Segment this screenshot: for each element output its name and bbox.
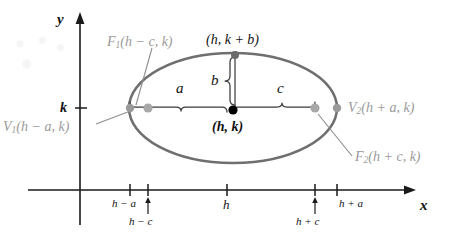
- x-axis-arrowhead: [404, 186, 416, 195]
- measure-label-a: a: [176, 81, 184, 96]
- vertex-left-coords: (h − a, k): [16, 119, 69, 134]
- vertex-left-label: V1(h − a, k): [3, 120, 69, 136]
- focus-left-symbol: F: [107, 34, 116, 49]
- arrow-to-h-plus-c-head: [312, 197, 318, 203]
- x-tick-label-h-minus-c: h − c: [129, 216, 152, 227]
- y-axis-label: y: [57, 12, 64, 27]
- co-vertex-top-dot: [231, 51, 239, 59]
- vertex-left-dot: [126, 104, 134, 112]
- focus-left-dot: [143, 103, 152, 112]
- vertex-right-symbol: V: [348, 100, 357, 115]
- focus-right-dot: [310, 103, 319, 112]
- leader-to-vertex-left: [96, 110, 133, 124]
- y-axis-arrowhead: [76, 12, 85, 24]
- focus-left-label: F1(h − c, k): [107, 35, 173, 51]
- center-label: (h, k): [212, 120, 243, 134]
- vertex-right-coords: (h + a, k): [361, 100, 414, 115]
- x-tick-label-h-minus-a: h − a: [112, 198, 136, 209]
- tick-pointer-group: [145, 197, 318, 214]
- leader-lines-group: [96, 48, 352, 156]
- brace-b: [225, 57, 235, 105]
- co-vertex-top-label: (h, k + b): [206, 33, 259, 47]
- vertex-left-symbol: V: [3, 119, 12, 134]
- y-tick-label-k: k: [60, 101, 67, 115]
- focus-right-label: F2(h + c, k): [355, 150, 421, 166]
- vertex-right-label: V2(h + a, k): [348, 101, 414, 117]
- vertex-right-dot: [333, 104, 341, 112]
- measure-label-b: b: [211, 73, 219, 88]
- focus-left-coords: (h − c, k): [120, 34, 172, 49]
- ellipse-diagram: y x k h − a h − c h h + c h + a a b c F1…: [0, 0, 455, 241]
- x-tick-label-h-plus-c: h + c: [296, 216, 319, 227]
- center-dot: [228, 105, 237, 114]
- brace-c: [233, 102, 315, 112]
- arrow-to-h-minus-c-head: [145, 197, 151, 203]
- measure-label-c: c: [277, 81, 284, 96]
- x-tick-label-h: h: [223, 198, 230, 211]
- x-axis-label: x: [420, 198, 428, 213]
- focus-right-coords: (h + c, k): [368, 149, 420, 164]
- focus-right-symbol: F: [355, 149, 364, 164]
- x-tick-label-h-plus-a: h + a: [339, 198, 363, 209]
